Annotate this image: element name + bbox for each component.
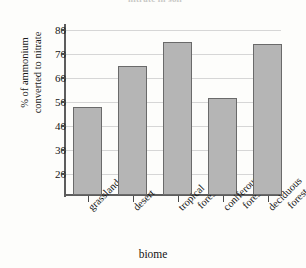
y-axis-tick-mark: [61, 77, 66, 78]
y-axis-tick-mark: [61, 173, 66, 174]
y-axis-tick-mark: [61, 125, 66, 126]
bar-chart-figure: nitrate in soil % of ammonium converted …: [0, 0, 306, 268]
y-axis-tick-mark: [61, 101, 66, 102]
gridline: [66, 30, 281, 31]
y-axis-tick-marks: [61, 0, 71, 268]
bar: [253, 44, 282, 195]
y-axis-tick-mark: [61, 29, 66, 30]
bar: [163, 42, 192, 195]
bar: [208, 98, 237, 195]
bar: [118, 66, 147, 195]
y-axis-title-line-1: % of ammonium: [19, 0, 32, 153]
y-axis-tick-mark: [61, 149, 66, 150]
x-axis-title: biome: [0, 248, 306, 260]
cropped-chart-title: nitrate in soil: [95, 0, 215, 2]
y-axis-tick-mark: [61, 53, 66, 54]
bar: [73, 107, 102, 195]
